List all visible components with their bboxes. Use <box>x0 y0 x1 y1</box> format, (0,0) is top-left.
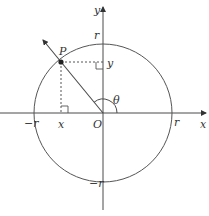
y-coordinate-label: y <box>106 57 114 70</box>
point-p <box>58 59 63 64</box>
r-top-label: r <box>94 29 100 42</box>
point-p-label: P <box>58 45 67 58</box>
r-right-label: r <box>174 116 180 129</box>
right-angle-marker-y <box>96 62 103 69</box>
angle-theta-label: θ <box>113 94 120 107</box>
unit-circle-diagram: P y x O θ r r −r −r x y <box>0 0 209 216</box>
right-angle-marker-x <box>61 106 68 113</box>
neg-r-bottom-label: −r <box>89 177 104 190</box>
origin-label: O <box>93 118 102 131</box>
x-coordinate-label: x <box>58 118 65 131</box>
x-axis-label: x <box>200 118 207 131</box>
y-axis-label: y <box>93 4 101 17</box>
neg-r-left-label: −r <box>24 117 39 130</box>
